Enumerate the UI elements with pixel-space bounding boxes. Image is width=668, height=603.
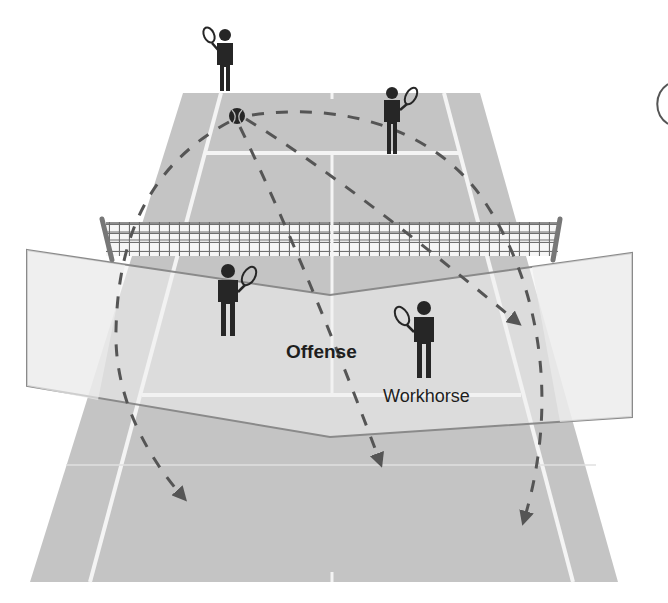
player-head-icon	[219, 29, 231, 41]
tennis-diagram: Offense Workhorse	[0, 0, 668, 603]
offense-label: Offense	[286, 342, 357, 361]
player-head-icon	[417, 301, 431, 315]
tennis-ball	[229, 108, 245, 124]
net	[102, 219, 560, 260]
partial-circle-marker	[657, 84, 668, 124]
workhorse-label: Workhorse	[383, 387, 470, 405]
player-head-icon	[386, 87, 398, 99]
racket-icon	[201, 26, 217, 45]
player-far-baseline	[201, 26, 233, 91]
player-head-icon	[221, 264, 235, 278]
